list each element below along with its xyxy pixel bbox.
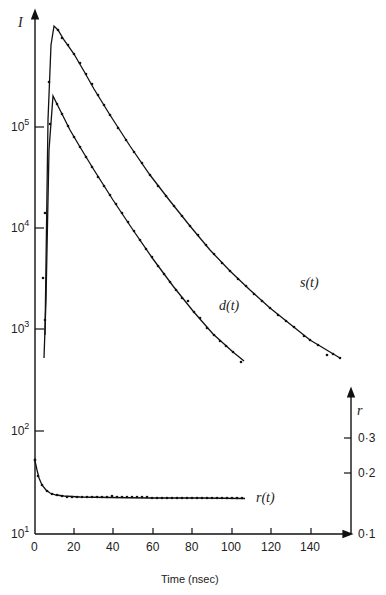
y-tick-label-1e1: 101 (11, 527, 29, 541)
x-tick-label-120: 120 (261, 540, 281, 554)
y-tick-label-1e5: 105 (11, 120, 29, 134)
series-r-label: r(t) (256, 490, 275, 506)
r-tick-label-0-2: 0·2 (358, 466, 375, 480)
x-tick-label-140: 140 (300, 540, 320, 554)
series-d-label: d(t) (219, 298, 239, 314)
x-tick-label-60: 60 (146, 540, 159, 554)
series-s-curve (45, 26, 340, 358)
x-tick-label-100: 100 (221, 540, 241, 554)
series-s-label: s(t) (300, 275, 319, 291)
x-axis-label: Time (nsec) (161, 573, 219, 585)
x-tick-label-40: 40 (106, 540, 119, 554)
x-tick-label-20: 20 (67, 540, 80, 554)
x-ticks (74, 528, 311, 534)
chart-plot-area (0, 0, 386, 595)
series-d-points (42, 103, 243, 364)
series-r-curve (35, 461, 245, 499)
r-tick-label-0-3: 0·3 (358, 431, 375, 445)
x-tick-label-80: 80 (185, 540, 198, 554)
y-tick-label-1e4: 104 (11, 221, 29, 235)
y-axis-right-label: r (357, 403, 362, 419)
x-tick-label-0: 0 (31, 540, 38, 554)
y-axis-label: I (18, 15, 23, 31)
y-tick-label-1e2: 102 (11, 424, 29, 438)
series-r-points (34, 459, 244, 500)
y-ticks-right (344, 438, 351, 473)
r-tick-label-0-1: 0·1 (358, 527, 375, 541)
y-tick-label-1e3: 103 (11, 322, 29, 336)
